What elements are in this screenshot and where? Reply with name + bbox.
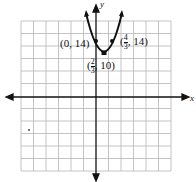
y-axis-down-arrow-icon (93, 174, 99, 181)
stray-dot (28, 129, 30, 131)
curve-right-arrow-icon (119, 10, 124, 17)
x-axis-right-arrow-icon (182, 94, 189, 100)
point-4-3-14 (110, 39, 114, 43)
point-label-0-14: (0, 14) (60, 38, 89, 49)
point-0-14 (94, 39, 98, 43)
curve-left-arrow-icon (84, 10, 89, 17)
y-axis-up-arrow-icon (93, 5, 99, 12)
x-axis-label: x (190, 94, 194, 103)
vertex-label: (23, 10) (87, 58, 115, 75)
x-axis-left-arrow-icon (6, 94, 13, 100)
coordinate-plane (0, 0, 196, 182)
point-label-4-3-14: (43, 14) (120, 34, 148, 51)
y-axis-label: y (100, 0, 104, 9)
vertex-point (102, 51, 107, 55)
